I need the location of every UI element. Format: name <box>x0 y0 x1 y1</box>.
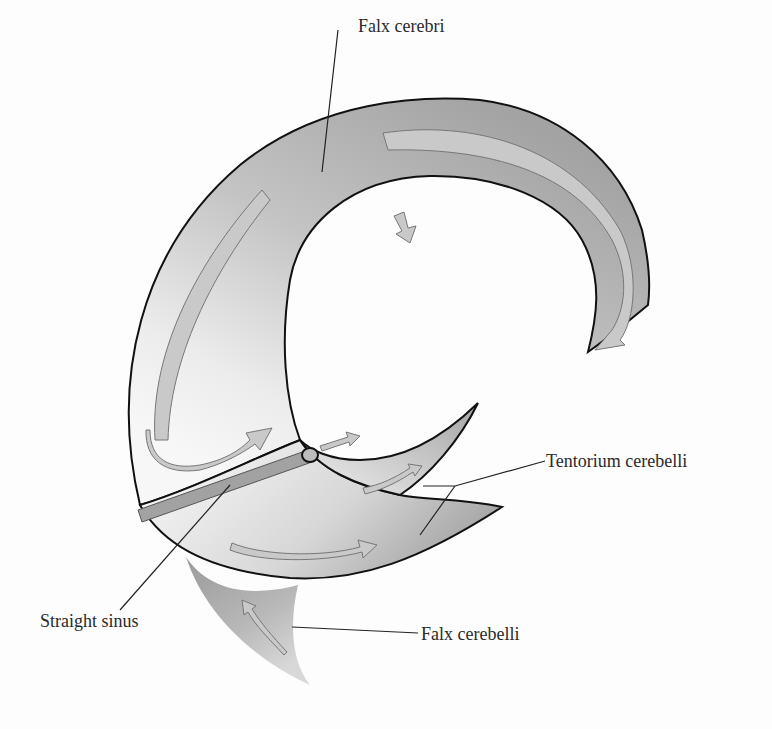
falx-cerebri-shape <box>129 99 649 505</box>
dural-folds-diagram: Falx cerebri Tentorium cerebelli Straigh… <box>0 0 772 729</box>
label-straight-sinus: Straight sinus <box>40 612 139 630</box>
flow-arrow-down <box>394 212 416 243</box>
label-tentorium-cerebelli: Tentorium cerebelli <box>546 452 687 470</box>
straight-sinus-opening <box>302 448 318 462</box>
flow-arrow-sinus-out <box>320 432 360 451</box>
leader-line-falx-cerebelli <box>292 627 418 633</box>
label-falx-cerebelli: Falx cerebelli <box>421 625 519 643</box>
label-falx-cerebri: Falx cerebri <box>358 17 444 35</box>
